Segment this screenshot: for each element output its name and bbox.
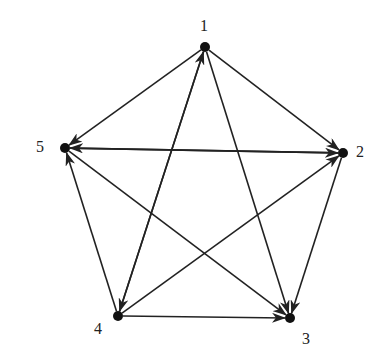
edge-4-to-1: [120, 52, 204, 311]
node-label-1: 1: [200, 17, 208, 35]
edge-1-to-5: [69, 50, 201, 145]
node-4: [113, 311, 123, 321]
edge-2-to-3: [292, 158, 342, 313]
edge-1-to-2: [209, 50, 339, 150]
edge-4-to-3: [123, 316, 285, 318]
node-5: [60, 143, 70, 153]
edge-1-to-3: [206, 52, 288, 313]
node-label-4: 4: [94, 320, 102, 338]
node-label-2: 2: [356, 143, 364, 161]
edge-4-to-5: [67, 153, 117, 311]
node-label-3: 3: [302, 330, 310, 348]
node-label-5: 5: [36, 138, 44, 156]
node-3: [285, 313, 295, 323]
edges-group: [67, 50, 342, 318]
nodes-group: [60, 42, 348, 323]
node-2: [338, 148, 348, 158]
edge-5-to-3: [69, 151, 286, 315]
directed-graph: [0, 0, 388, 351]
edge-4-to-2: [122, 156, 339, 313]
node-1: [200, 42, 210, 52]
edge-5-to-2: [70, 148, 338, 153]
